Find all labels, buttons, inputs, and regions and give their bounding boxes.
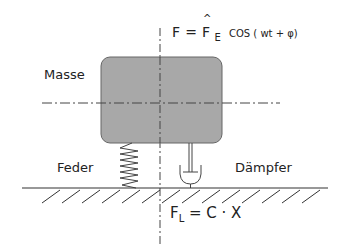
force-subscript: L [179, 213, 185, 224]
ground-hatching [42, 190, 320, 203]
equals-sign: = [185, 24, 197, 40]
damper-icon [180, 143, 201, 188]
damper-label: Dämpfer [235, 160, 292, 175]
force-symbol: F [170, 204, 179, 222]
amplitude-subscript: E [215, 32, 221, 43]
spring-force-equation: FL = C · X [170, 204, 241, 224]
excitation-force-equation: F = F ^ E COS ( wt + φ) [172, 22, 298, 43]
force-symbol: F [172, 24, 180, 40]
amplitude-symbol: F [202, 24, 210, 40]
spring-label: Feder [57, 160, 93, 175]
mass-block [101, 57, 222, 143]
mass-label: Masse [44, 67, 85, 82]
spring-force-rhs: = C · X [189, 204, 241, 222]
cos-term: COS ( wt + φ) [229, 28, 298, 39]
spring-icon [120, 143, 138, 188]
hat-accent: ^ [203, 13, 211, 24]
